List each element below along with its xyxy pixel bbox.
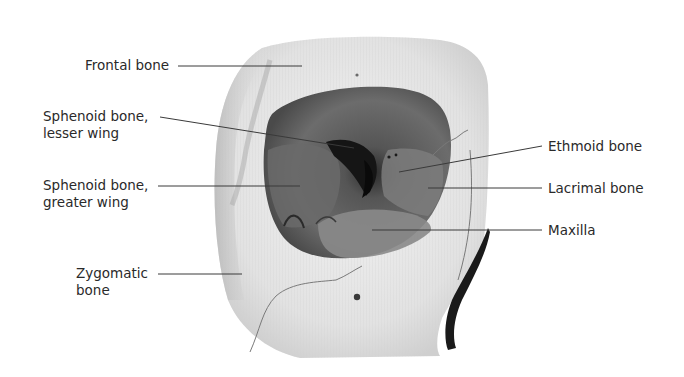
label-sphenoid-greater-line1: Sphenoid bone, bbox=[43, 177, 148, 194]
label-zygomatic-bone: Zygomatic bone bbox=[76, 265, 148, 299]
label-sphenoid-lesser-wing: Sphenoid bone, lesser wing bbox=[43, 108, 148, 142]
label-sphenoid-greater-line2: greater wing bbox=[43, 194, 148, 211]
label-sphenoid-lesser-line2: lesser wing bbox=[43, 125, 148, 142]
label-ethmoid-text: Ethmoid bone bbox=[548, 138, 642, 154]
label-lacrimal-text: Lacrimal bone bbox=[548, 180, 644, 196]
orbit-diagram: Frontal bone Sphenoid bone, lesser wing … bbox=[0, 0, 684, 377]
label-maxilla-text: Maxilla bbox=[548, 222, 595, 238]
label-lacrimal-bone: Lacrimal bone bbox=[548, 180, 644, 197]
label-zygomatic-line1: Zygomatic bbox=[76, 265, 148, 282]
label-ethmoid-bone: Ethmoid bone bbox=[548, 138, 642, 155]
label-frontal-bone: Frontal bone bbox=[85, 57, 169, 74]
label-maxilla: Maxilla bbox=[548, 222, 595, 239]
label-sphenoid-greater-wing: Sphenoid bone, greater wing bbox=[43, 177, 148, 211]
label-zygomatic-line2: bone bbox=[76, 282, 148, 299]
label-frontal-bone-text: Frontal bone bbox=[85, 57, 169, 73]
label-sphenoid-lesser-line1: Sphenoid bone, bbox=[43, 108, 148, 125]
